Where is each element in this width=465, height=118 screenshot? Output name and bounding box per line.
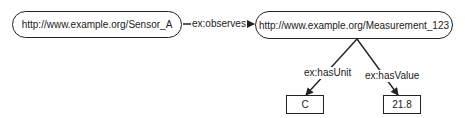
node-sensor-a-label: http://www.example.org/Sensor_A bbox=[22, 19, 173, 30]
edge-label-has-unit: ex:hasUnit bbox=[303, 67, 352, 79]
edge-label-has-value: ex:hasValue bbox=[364, 70, 420, 82]
node-unit-c[interactable]: C bbox=[286, 95, 324, 114]
edge-label-observes: ex:observes bbox=[191, 18, 247, 30]
node-measurement-123[interactable]: http://www.example.org/Measurement_123 bbox=[255, 11, 453, 39]
node-value-label: 21.8 bbox=[392, 99, 411, 110]
node-sensor-a[interactable]: http://www.example.org/Sensor_A bbox=[12, 11, 182, 38]
edge-has-value bbox=[357, 39, 398, 95]
node-measurement-123-label: http://www.example.org/Measurement_123 bbox=[259, 20, 449, 31]
node-value-21-8[interactable]: 21.8 bbox=[383, 95, 421, 114]
node-unit-c-label: C bbox=[301, 99, 308, 110]
